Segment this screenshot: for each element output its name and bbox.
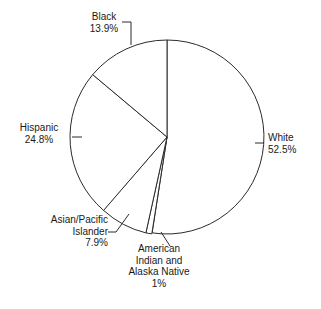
pie-slice-white[interactable] — [152, 40, 264, 234]
pie-chart: Black 13.9% White 52.5% Hispanic 24.8% A… — [0, 0, 321, 309]
pie-label-black-name: Black — [75, 11, 133, 23]
pie-label-amind-line3: Alaska Native — [115, 266, 203, 278]
pie-label-asian-pacific-islander: Asian/Pacific Islander 7.9% — [34, 214, 108, 249]
pie-label-hispanic-percent: 24.8% — [8, 134, 70, 146]
pie-label-asian-percent: 7.9% — [34, 237, 108, 249]
pie-label-white: White 52.5% — [268, 132, 316, 155]
pie-label-asian-line2: Islander — [34, 226, 108, 238]
pie-label-asian-line1: Asian/Pacific — [34, 214, 108, 226]
pie-label-white-percent: 52.5% — [268, 144, 316, 156]
pie-label-amind-line1: American — [115, 243, 203, 255]
pie-label-american-indian-and-alaska-native: American Indian and Alaska Native 1% — [115, 243, 203, 289]
pie-label-amind-percent: 1% — [115, 278, 203, 290]
pie-label-hispanic: Hispanic 24.8% — [8, 122, 70, 145]
pie-label-hispanic-name: Hispanic — [8, 122, 70, 134]
pie-label-black-percent: 13.9% — [75, 23, 133, 35]
pie-label-white-name: White — [268, 132, 316, 144]
pie-label-black: Black 13.9% — [75, 11, 133, 34]
pie-label-amind-line2: Indian and — [115, 255, 203, 267]
